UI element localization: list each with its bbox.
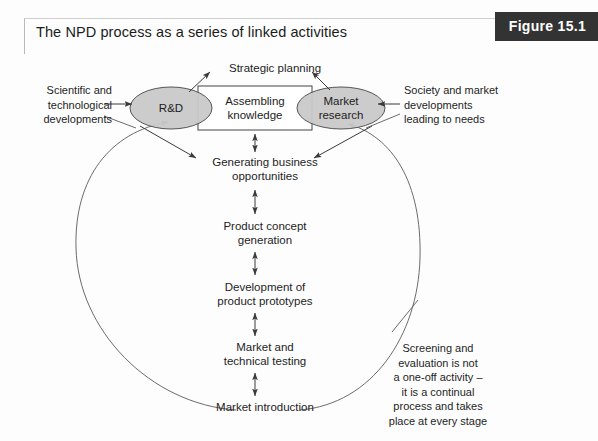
figure-page: The NPD process as a series of linked ac… [0,0,598,441]
arrow-rd-to-generating [140,126,196,158]
arrow-marketresearch-to-generating [314,126,372,158]
node-rd: R&D [140,101,202,115]
node-generating-business-opportunities: Generating business opportunities [185,155,345,183]
node-product-concept-generation: Product concept generation [195,219,335,247]
node-market-research: Market research [303,94,379,122]
leader-screening-tail [392,300,418,332]
annotation-screening-and-evaluation: Screening and evaluation is not a one-of… [374,341,502,428]
node-development-of-product-prototypes: Development of product prototypes [195,280,335,308]
node-assembling-knowledge: Assembling knowledge [205,94,305,122]
node-market-and-technical-testing: Market and technical testing [195,340,335,368]
annotation-scientific-technological-developments: Scientific and technological development… [14,83,112,127]
annotation-society-market-developments: Society and market developments leading … [404,83,524,127]
node-market-introduction: Market introduction [190,400,340,414]
node-strategic-planning: Strategic planning [205,61,345,75]
